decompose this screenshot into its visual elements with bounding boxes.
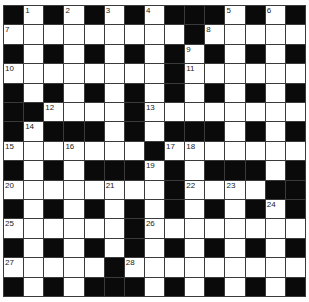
white-cell[interactable]: 6: [266, 6, 285, 24]
white-cell[interactable]: [105, 84, 124, 102]
white-cell[interactable]: 20: [4, 181, 23, 199]
white-cell[interactable]: [266, 142, 285, 160]
white-cell[interactable]: [246, 25, 265, 43]
white-cell[interactable]: [266, 64, 285, 82]
white-cell[interactable]: [145, 200, 164, 218]
white-cell[interactable]: [266, 103, 285, 121]
white-cell[interactable]: [85, 219, 104, 237]
white-cell[interactable]: [105, 239, 124, 257]
white-cell[interactable]: [225, 258, 244, 276]
white-cell[interactable]: 12: [44, 103, 63, 121]
white-cell[interactable]: [145, 278, 164, 296]
white-cell[interactable]: [24, 219, 43, 237]
white-cell[interactable]: [24, 161, 43, 179]
white-cell[interactable]: [205, 258, 224, 276]
white-cell[interactable]: 4: [145, 6, 164, 24]
white-cell[interactable]: [145, 258, 164, 276]
white-cell[interactable]: [225, 142, 244, 160]
white-cell[interactable]: [64, 45, 83, 63]
white-cell[interactable]: [165, 103, 184, 121]
white-cell[interactable]: [24, 64, 43, 82]
white-cell[interactable]: [85, 258, 104, 276]
white-cell[interactable]: [286, 258, 305, 276]
white-cell[interactable]: [185, 161, 204, 179]
white-cell[interactable]: [145, 239, 164, 257]
white-cell[interactable]: [125, 25, 144, 43]
white-cell[interactable]: [205, 142, 224, 160]
white-cell[interactable]: 10: [4, 64, 23, 82]
white-cell[interactable]: [266, 84, 285, 102]
white-cell[interactable]: [246, 258, 265, 276]
white-cell[interactable]: [225, 122, 244, 140]
white-cell[interactable]: 7: [4, 25, 23, 43]
white-cell[interactable]: 13: [145, 103, 164, 121]
white-cell[interactable]: [105, 219, 124, 237]
white-cell[interactable]: [85, 64, 104, 82]
white-cell[interactable]: [44, 64, 63, 82]
white-cell[interactable]: 2: [64, 6, 83, 24]
white-cell[interactable]: [64, 258, 83, 276]
white-cell[interactable]: [165, 25, 184, 43]
white-cell[interactable]: 14: [24, 122, 43, 140]
white-cell[interactable]: [44, 25, 63, 43]
white-cell[interactable]: [225, 25, 244, 43]
white-cell[interactable]: [64, 64, 83, 82]
white-cell[interactable]: [105, 25, 124, 43]
white-cell[interactable]: [64, 161, 83, 179]
white-cell[interactable]: 18: [185, 142, 204, 160]
white-cell[interactable]: [286, 142, 305, 160]
white-cell[interactable]: [225, 239, 244, 257]
white-cell[interactable]: [64, 278, 83, 296]
white-cell[interactable]: [24, 239, 43, 257]
white-cell[interactable]: [105, 64, 124, 82]
white-cell[interactable]: 11: [185, 64, 204, 82]
white-cell[interactable]: [185, 200, 204, 218]
white-cell[interactable]: [24, 142, 43, 160]
white-cell[interactable]: [266, 45, 285, 63]
white-cell[interactable]: [286, 25, 305, 43]
white-cell[interactable]: [205, 103, 224, 121]
white-cell[interactable]: [105, 200, 124, 218]
white-cell[interactable]: [246, 219, 265, 237]
white-cell[interactable]: [266, 258, 285, 276]
white-cell[interactable]: [85, 142, 104, 160]
white-cell[interactable]: 5: [225, 6, 244, 24]
white-cell[interactable]: [44, 142, 63, 160]
white-cell[interactable]: [145, 181, 164, 199]
white-cell[interactable]: [24, 25, 43, 43]
white-cell[interactable]: [85, 103, 104, 121]
white-cell[interactable]: [225, 64, 244, 82]
white-cell[interactable]: [185, 103, 204, 121]
white-cell[interactable]: 16: [64, 142, 83, 160]
white-cell[interactable]: [165, 258, 184, 276]
white-cell[interactable]: [105, 103, 124, 121]
white-cell[interactable]: [205, 181, 224, 199]
white-cell[interactable]: [286, 103, 305, 121]
white-cell[interactable]: 21: [105, 181, 124, 199]
white-cell[interactable]: 28: [125, 258, 144, 276]
white-cell[interactable]: [246, 103, 265, 121]
white-cell[interactable]: [225, 84, 244, 102]
white-cell[interactable]: [225, 219, 244, 237]
white-cell[interactable]: [24, 181, 43, 199]
white-cell[interactable]: [266, 161, 285, 179]
white-cell[interactable]: [225, 45, 244, 63]
white-cell[interactable]: [266, 122, 285, 140]
white-cell[interactable]: [44, 258, 63, 276]
white-cell[interactable]: [266, 219, 285, 237]
white-cell[interactable]: [24, 278, 43, 296]
white-cell[interactable]: [24, 258, 43, 276]
white-cell[interactable]: [64, 103, 83, 121]
white-cell[interactable]: [225, 200, 244, 218]
white-cell[interactable]: 24: [266, 200, 285, 218]
white-cell[interactable]: [125, 142, 144, 160]
white-cell[interactable]: 1: [24, 6, 43, 24]
white-cell[interactable]: 9: [185, 45, 204, 63]
white-cell[interactable]: [125, 181, 144, 199]
white-cell[interactable]: [85, 25, 104, 43]
white-cell[interactable]: [145, 64, 164, 82]
white-cell[interactable]: [266, 25, 285, 43]
white-cell[interactable]: [246, 142, 265, 160]
white-cell[interactable]: [246, 181, 265, 199]
white-cell[interactable]: [266, 278, 285, 296]
